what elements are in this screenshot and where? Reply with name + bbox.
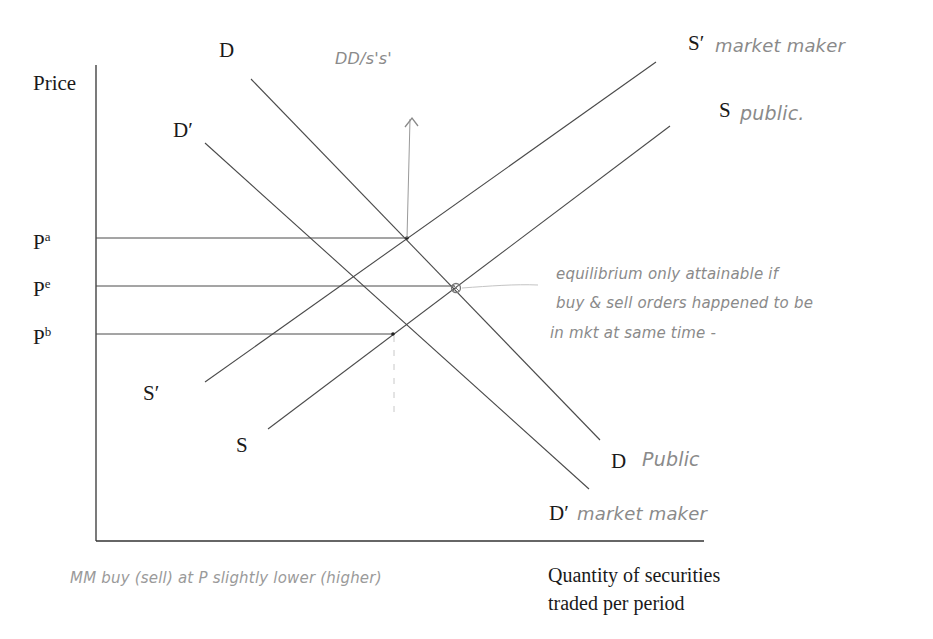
annotation-bottom-note: MM buy (sell) at P slightly lower (highe… (70, 568, 382, 588)
demand-curve-d-prime (205, 143, 589, 489)
equilibrium-pointer-line (462, 285, 538, 288)
curve-label-d-prime-bottom: D′ (549, 503, 569, 524)
curve-label-s-bottom: S (236, 435, 248, 456)
curve-label-s-top: S (719, 100, 731, 121)
annotation-s-prime-market-maker: market maker (715, 34, 845, 58)
annotation-d-prime-market-maker: market maker (577, 502, 707, 526)
pencil-arrow-head-icon (405, 118, 418, 127)
pencil-arrow-shaft (407, 119, 410, 238)
annotation-equilibrium-line2: buy & sell orders happened to be (556, 293, 813, 313)
supply-demand-diagram (0, 0, 933, 639)
annotation-d-public: Public (642, 447, 700, 473)
bid-intersection-dot (391, 332, 395, 336)
curve-label-s-prime-top: S′ (688, 33, 704, 54)
curve-label-d-bottom: D (611, 451, 626, 472)
annotation-equilibrium-line3: in mkt at same time - (550, 323, 716, 343)
y-axis-label: Price (33, 73, 76, 94)
curve-label-s-prime-bottom: S′ (143, 383, 159, 404)
annotation-s-public: public. (740, 101, 805, 127)
annotation-shift-note: DD/s's' (335, 48, 392, 70)
price-label-pe: Pe (33, 277, 50, 300)
price-label-pb: Pb (33, 325, 51, 348)
x-axis-label-line2: traded per period (548, 593, 685, 613)
price-label-pa: Pa (33, 230, 50, 253)
curve-label-d-top: D (219, 40, 234, 61)
annotation-equilibrium-line1: equilibrium only attainable if (556, 264, 778, 284)
demand-curve-d (251, 79, 600, 440)
curve-label-d-prime-top: D′ (173, 120, 193, 141)
x-axis-label-line1: Quantity of securities (548, 565, 720, 585)
